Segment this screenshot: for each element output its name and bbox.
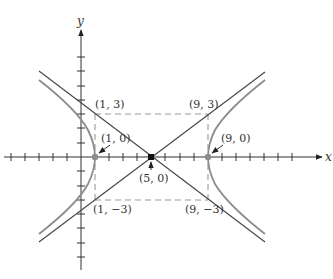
- pointer-vertex-left: [99, 145, 110, 153]
- vertex-right-dot: [205, 154, 211, 160]
- label-corner-top-left: (1, 3): [95, 98, 125, 111]
- y-axis-label: y: [76, 14, 84, 28]
- y-axis: y: [76, 14, 85, 270]
- label-corner-bottom-right: (9, −3): [185, 203, 224, 216]
- vertex-left-dot: [92, 154, 98, 160]
- pointer-vertex-right: [212, 145, 223, 153]
- label-center: (5, 0): [139, 172, 169, 185]
- label-corner-bottom-left: (1, −3): [93, 203, 132, 216]
- label-vertex-right: (9, 0): [221, 132, 251, 145]
- x-axis: x: [4, 150, 332, 164]
- x-axis-label: x: [325, 150, 332, 164]
- center-dot: [148, 154, 154, 160]
- hyperbola-diagram: x y: [0, 0, 333, 279]
- label-corner-top-right: (9, 3): [189, 98, 219, 111]
- label-vertex-left: (1, 0): [101, 132, 131, 145]
